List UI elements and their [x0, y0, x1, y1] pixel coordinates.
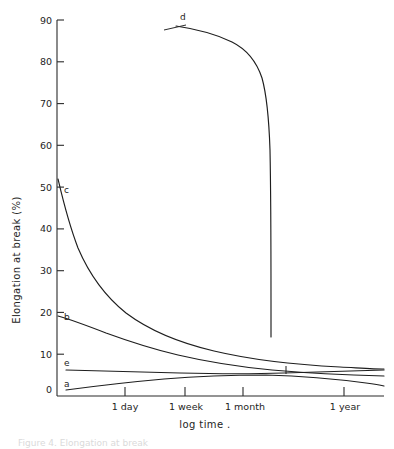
x-tick-label-1-week: 1 week	[169, 401, 204, 412]
curve-label-c: c	[64, 185, 69, 195]
curve-d	[176, 26, 271, 337]
axes-group	[57, 20, 384, 396]
curve-a	[66, 375, 384, 390]
y-tick-label-80: 80	[40, 56, 52, 67]
x-tick-group	[125, 387, 344, 396]
y-tick-label-70: 70	[40, 98, 52, 109]
y-tick-label-30: 30	[40, 265, 52, 276]
page-caption-strip: Figure 4. Elongation at break	[18, 437, 318, 449]
y-tick-label-0: 0	[46, 384, 52, 395]
x-tick-label-1-year: 1 year	[330, 401, 360, 412]
y-tick-label-90: 90	[40, 15, 52, 26]
chart-canvas: 90 80 70 60 50 40 30 20 10 0 1 day 1 wee…	[0, 0, 394, 449]
y-tick-label-10: 10	[40, 349, 52, 360]
y-tick-label-60: 60	[40, 140, 52, 151]
curve-label-a: a	[64, 379, 70, 389]
curve-c	[58, 179, 384, 369]
y-tick-label-20: 20	[40, 307, 52, 318]
y-tick-label-50: 50	[40, 182, 52, 193]
x-tick-label-1-day: 1 day	[112, 401, 139, 412]
curves-group	[58, 26, 384, 390]
curve-label-b: b	[64, 312, 70, 322]
curve-label-e: e	[64, 358, 70, 368]
x-tick-label-1-month: 1 month	[225, 401, 265, 412]
figure-panel: 90 80 70 60 50 40 30 20 10 0 1 day 1 wee…	[0, 0, 394, 449]
curve-label-d: d	[180, 12, 186, 22]
y-axis-title: Elongation at break (%)	[11, 196, 22, 324]
y-tick-label-group: 90 80 70 60 50 40 30 20 10 0	[40, 15, 52, 395]
y-tick-label-40: 40	[40, 223, 52, 234]
curve-e	[66, 370, 384, 374]
curve-label-group: d c b e a	[64, 12, 186, 389]
x-tick-label-group: 1 day 1 week 1 month 1 year	[112, 401, 360, 412]
page-caption-text: Figure 4. Elongation at break	[18, 437, 318, 449]
x-axis-title: log time .	[179, 419, 230, 430]
